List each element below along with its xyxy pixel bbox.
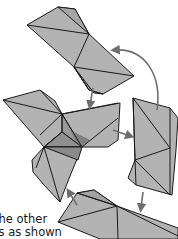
caption-line-2: ts as shown [0,227,62,239]
center-assembled-unit [3,90,120,202]
origami-diagram [0,0,178,239]
arrow-right-to-bottom [141,192,143,208]
caption-line-1: the other [0,214,47,226]
right-folded-unit [128,98,178,195]
bottom-folded-unit [58,190,178,239]
